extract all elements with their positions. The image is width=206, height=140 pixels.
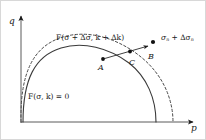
point-c-marker [128,50,132,54]
point-a-label: A [98,64,104,72]
point-b-marker [151,40,155,44]
point-a-marker [101,57,105,61]
delta-sigma-symbol: + Δσ [169,33,191,42]
y-axis-label: q [9,17,15,26]
stress-increment-label: σn + Δσn [161,34,194,43]
inner-surface-label: F(σ, k) = 0 [28,93,69,101]
inner-yield-surface-curve [23,45,156,122]
point-c-label: C [129,59,135,67]
x-axis-label: p [191,124,197,133]
sigma-subscript-2: n [191,37,194,42]
yield-surface-figure: q p F(σ + Δσ, k + Δk) F(σ, k) = 0 σn + Δ… [0,0,206,140]
point-b-label: B [148,53,154,61]
outer-surface-label: F(σ + Δσ, k + Δk) [56,34,124,42]
